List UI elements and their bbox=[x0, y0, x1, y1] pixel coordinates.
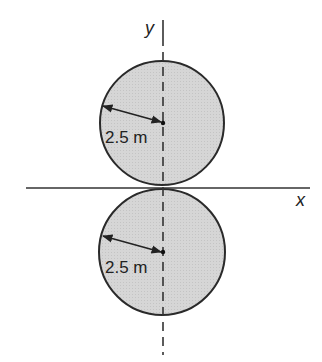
x-axis-label: x bbox=[295, 190, 306, 210]
lower-center-point bbox=[161, 250, 165, 254]
y-axis-label: y bbox=[143, 18, 155, 38]
upper-center-point bbox=[161, 121, 165, 125]
upper-radius-label: 2.5 m bbox=[105, 128, 148, 147]
diagram-canvas: 2.5 m 2.5 m y x bbox=[0, 0, 322, 362]
lower-radius-label: 2.5 m bbox=[105, 258, 148, 277]
